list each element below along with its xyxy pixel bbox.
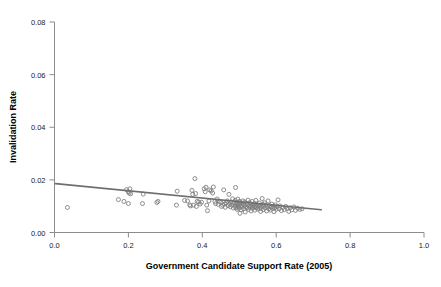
x-tick-label: 0.4 <box>197 241 207 250</box>
scatter-point <box>190 188 194 192</box>
plot-canvas: 0.000.020.040.060.08 0.00.20.40.60.81.0 … <box>0 0 441 287</box>
scatter-point <box>234 186 238 190</box>
x-tick-label: 0.6 <box>271 241 281 250</box>
y-tick-label: 0.00 <box>31 229 46 238</box>
y-axis-title: Invalidation Rate <box>8 91 18 163</box>
scatter-point <box>156 199 160 203</box>
scatter-point <box>205 203 209 207</box>
x-axis-title: Government Candidate Support Rate (2005) <box>146 261 333 271</box>
scatter-point <box>122 199 126 203</box>
scatter-point <box>211 185 215 189</box>
y-tick-label: 0.08 <box>31 18 46 27</box>
y-tick-label: 0.02 <box>31 176 46 185</box>
scatter-point <box>222 188 226 192</box>
y-tick-label: 0.04 <box>31 123 46 132</box>
scatter-point <box>126 202 130 206</box>
scatter-point <box>140 202 144 206</box>
scatter-plot-figure: 0.000.020.040.060.08 0.00.20.40.60.81.0 … <box>0 0 441 287</box>
y-tick-label: 0.06 <box>31 71 46 80</box>
scatter-point <box>276 198 280 202</box>
scatter-point <box>266 199 270 203</box>
scatter-point <box>260 197 264 201</box>
scatter-point <box>205 209 209 213</box>
scatter-point <box>65 206 69 210</box>
scatter-point <box>193 177 197 181</box>
scatter-point <box>174 203 178 207</box>
x-tick-label: 0.2 <box>123 241 133 250</box>
x-tick-label: 0.0 <box>49 241 59 250</box>
scatter-point <box>155 201 159 205</box>
cut-off-title <box>0 0 441 2</box>
scatter-point <box>116 198 120 202</box>
x-tick-label: 1.0 <box>419 241 429 250</box>
scatter-point <box>227 192 231 196</box>
y-axis-ticks: 0.000.020.040.060.08 <box>31 18 55 238</box>
x-axis-ticks: 0.00.20.40.60.81.0 <box>49 233 429 250</box>
x-tick-label: 0.8 <box>345 241 355 250</box>
scatter-point <box>175 189 179 193</box>
